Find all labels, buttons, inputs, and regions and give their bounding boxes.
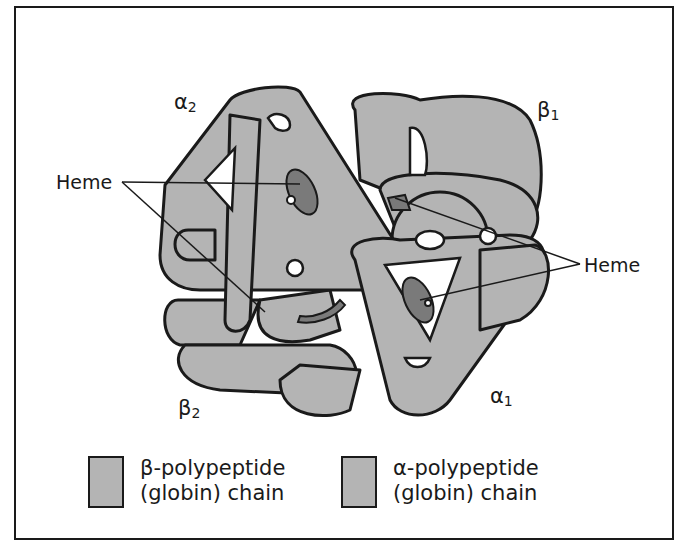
- alpha2-symbol: α: [174, 90, 188, 114]
- legend-item-beta: β-polypeptide (globin) chain: [88, 456, 285, 508]
- legend-text-beta: β-polypeptide (globin) chain: [140, 456, 285, 506]
- heme-label-left: Heme: [56, 173, 112, 192]
- label-beta2: β2: [178, 398, 200, 420]
- legend-item-alpha: α-polypeptide (globin) chain: [341, 456, 539, 508]
- legend-swatch-beta: [88, 456, 124, 508]
- beta1-subscript: 1: [550, 107, 559, 123]
- legend-alpha-line2: (globin) chain: [393, 481, 539, 506]
- legend-alpha-line1: α-polypeptide: [393, 456, 539, 481]
- beta2-symbol: β: [178, 396, 191, 420]
- label-beta1: β1: [537, 100, 559, 122]
- heme-label-right: Heme: [584, 256, 640, 275]
- label-alpha1: α1: [490, 386, 513, 408]
- alpha1-symbol: α: [490, 384, 504, 408]
- alpha2-subscript: 2: [188, 99, 197, 115]
- legend-text-alpha: α-polypeptide (globin) chain: [393, 456, 539, 506]
- beta2-subscript: 2: [191, 405, 200, 421]
- alpha1-subscript: 1: [504, 393, 513, 409]
- beta1-symbol: β: [537, 98, 550, 122]
- legend-beta-line2: (globin) chain: [140, 481, 285, 506]
- label-alpha2: α2: [174, 92, 197, 114]
- legend-swatch-alpha: [341, 456, 377, 508]
- legend-beta-line1: β-polypeptide: [140, 456, 285, 481]
